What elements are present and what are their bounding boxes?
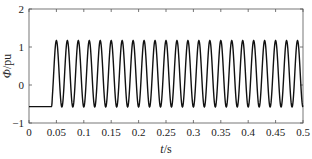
- x-tick-label: 0.2: [132, 126, 146, 138]
- y-tick-label: 1: [19, 41, 25, 53]
- x-tick-label: 0.45: [266, 126, 286, 138]
- x-tick-label: 0.1: [77, 126, 91, 138]
- x-tick-label: 0.5: [296, 126, 310, 138]
- y-tick-label: 2: [19, 3, 25, 15]
- x-axis-label: t/s: [160, 142, 172, 156]
- y-axis-label: Φ/pu: [0, 54, 14, 78]
- x-tick-label: 0.15: [102, 126, 122, 138]
- y-tick-label: −1: [12, 117, 24, 129]
- x-tick-label: 0.4: [241, 126, 255, 138]
- x-tick-label: 0.25: [156, 126, 176, 138]
- x-tick-label: 0.3: [187, 126, 201, 138]
- x-tick-label: 0.35: [211, 126, 231, 138]
- x-tick-label: 0.05: [47, 126, 67, 138]
- y-tick-label: 0: [19, 79, 25, 91]
- flux-series-line: [29, 41, 303, 108]
- x-tick-label: 0: [26, 126, 32, 138]
- line-chart: 00.050.10.150.20.250.30.350.40.450.5 −10…: [0, 0, 312, 159]
